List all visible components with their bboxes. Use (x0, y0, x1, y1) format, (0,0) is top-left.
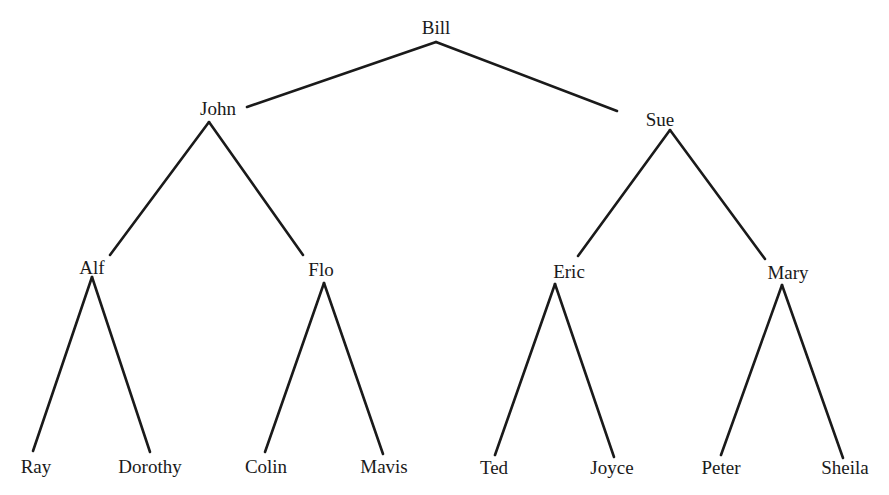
node-ted: Ted (480, 458, 508, 477)
node-mavis: Mavis (360, 457, 408, 476)
edge-john-flo (209, 122, 303, 255)
edge-sue-mary (670, 130, 765, 259)
node-peter: Peter (701, 458, 740, 477)
node-flo: Flo (308, 260, 333, 279)
edge-eric-joyce (555, 284, 614, 457)
edge-eric-ted (495, 284, 555, 455)
node-mary: Mary (767, 263, 808, 282)
edge-flo-colin (265, 283, 324, 452)
node-ray: Ray (21, 457, 52, 476)
node-eric: Eric (553, 262, 585, 281)
edge-alf-ray (33, 277, 92, 451)
node-sue: Sue (646, 110, 675, 129)
edge-sue-eric (578, 130, 670, 256)
node-dorothy: Dorothy (118, 457, 181, 476)
node-joyce: Joyce (590, 458, 633, 477)
edge-bill-john (247, 42, 436, 107)
node-colin: Colin (245, 457, 287, 476)
node-bill: Bill (422, 18, 451, 37)
edge-alf-dorothy (92, 277, 150, 452)
node-sheila: Sheila (821, 458, 869, 477)
node-alf: Alf (79, 258, 104, 277)
edge-flo-mavis (324, 283, 383, 454)
edge-mary-peter (721, 285, 782, 455)
edge-bill-sue (436, 42, 617, 111)
edge-john-alf (110, 122, 209, 255)
node-john: John (200, 99, 236, 118)
tree-edges (0, 0, 889, 495)
edge-mary-sheila (782, 285, 843, 458)
